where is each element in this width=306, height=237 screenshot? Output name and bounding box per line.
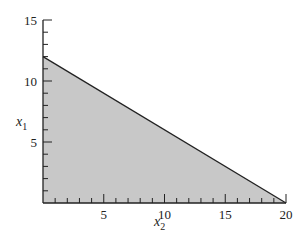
y-tick-label: 5 bbox=[31, 135, 38, 150]
y-tick-label: 15 bbox=[24, 13, 37, 28]
y-tick-label: 10 bbox=[24, 74, 37, 89]
x-tick-label: 5 bbox=[101, 207, 108, 222]
x-tick-label: 15 bbox=[219, 207, 232, 222]
y-axis-label: x1 bbox=[15, 114, 27, 132]
x-tick-label: 20 bbox=[280, 207, 293, 222]
feasible-region bbox=[43, 57, 286, 203]
chart: 510152051015 x1 x2 bbox=[0, 0, 306, 237]
